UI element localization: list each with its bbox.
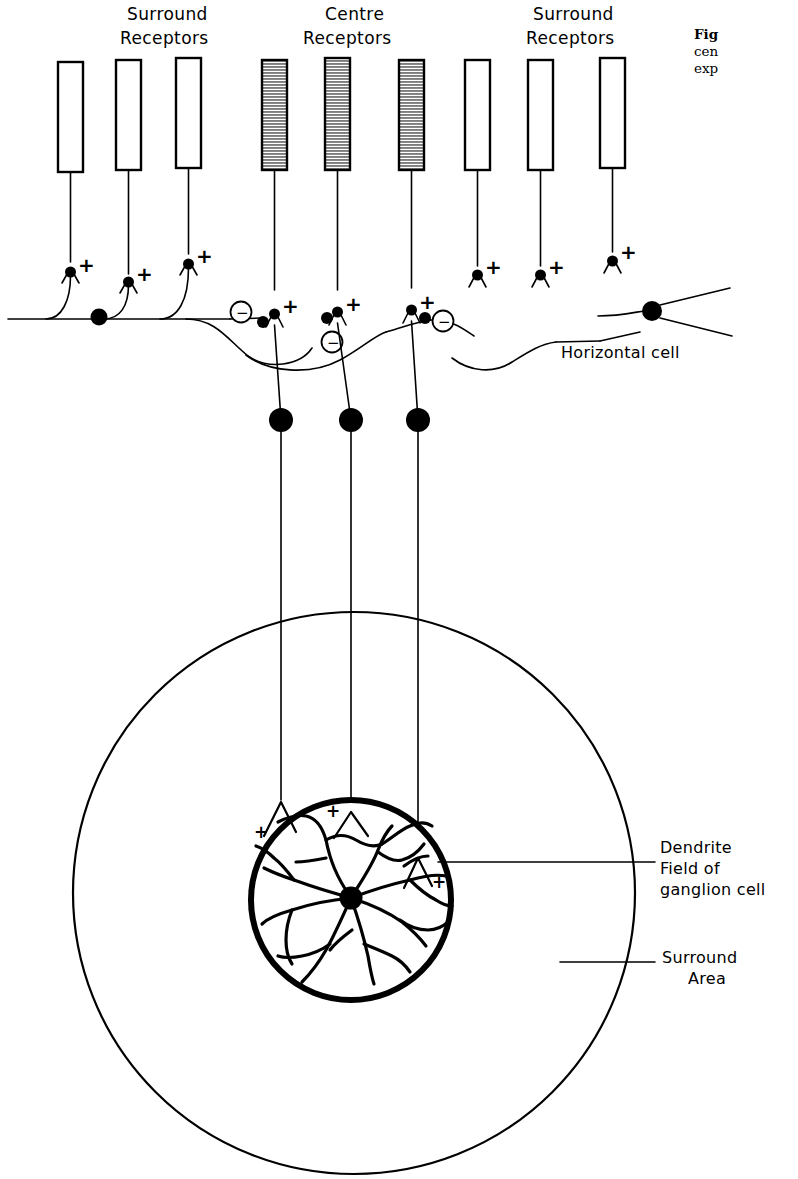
plus-sign-icon: + — [326, 801, 340, 821]
bipolar-cell-3 — [406, 321, 430, 860]
synapse-excitatory-7: + — [469, 255, 502, 287]
synapse-terminal-dot — [123, 277, 134, 288]
horizontal-cell-soma-left — [91, 309, 108, 326]
minus-sign-icon: − — [236, 304, 249, 322]
figure-caption-line-3: exp — [694, 60, 798, 77]
plus-sign-icon: + — [485, 255, 502, 279]
ganglion-cell-soma — [340, 887, 363, 910]
horizontal-cell-stem-right — [598, 311, 644, 316]
top-label-surround-left: Surround Receptors — [120, 4, 209, 48]
dendrite-field-label-line3: ganglion cell — [660, 880, 766, 899]
top-label-surround-right-line2: Receptors — [526, 28, 615, 48]
horizontal-cell-hook-1 — [46, 276, 71, 319]
centre-receptor-1 — [262, 60, 287, 290]
retina-receptive-field-diagram: Surround Receptors Centre Receptors Surr… — [0, 0, 798, 1179]
surround-receptor-5 — [528, 60, 553, 266]
horizontal-cell-trunk-right — [556, 341, 600, 342]
synapse-terminal-dot — [607, 256, 618, 267]
synapse-excitatory-5: + — [329, 292, 362, 325]
figure-caption-line-1: Fig — [694, 26, 798, 43]
synapse-inhibitory-3: − — [419, 311, 454, 332]
synapse-terminal-dot — [65, 267, 76, 278]
figure-root: Surround Receptors Centre Receptors Surr… — [0, 0, 798, 1179]
bipolar-soma — [339, 408, 363, 432]
top-label-centre-line1: Centre — [325, 4, 384, 24]
receptor-body — [262, 60, 287, 170]
horizontal-cell-feedback-arc-right — [452, 342, 556, 370]
horizontal-cell-label: Horizontal cell — [561, 343, 680, 362]
synapse-excitatory-2: + — [120, 262, 153, 293]
surround-receptor-4 — [465, 60, 490, 266]
horizontal-cell-process-upper-right — [660, 288, 730, 305]
bipolar-axon — [412, 321, 419, 860]
top-label-centre-line2: Receptors — [303, 28, 392, 48]
synapse-excitatory-8: + — [532, 255, 565, 287]
bipolar-soma — [406, 408, 430, 432]
top-label-surround-left-line2: Receptors — [120, 28, 209, 48]
plus-sign-icon: + — [254, 822, 268, 842]
bipolar-cell-2 — [338, 323, 364, 812]
synapse-inhibitory-1: − — [231, 302, 270, 329]
plus-sign-icon: + — [196, 244, 213, 268]
minus-sign-icon: − — [438, 313, 451, 331]
horizontal-cell-trunk-right2 — [600, 332, 640, 341]
plus-sign-icon: + — [432, 872, 446, 892]
plus-sign-icon: + — [345, 292, 362, 316]
synapse-terminal-dot — [269, 309, 280, 320]
plus-sign-icon: + — [78, 253, 95, 277]
dendrite-field-label-line2: Field of — [660, 859, 720, 878]
receptor-body — [58, 62, 83, 172]
surround-area-label-line1: Surround — [662, 948, 737, 967]
receptor-body — [325, 58, 350, 170]
synapse-excitatory-3: + — [180, 244, 213, 275]
plus-sign-icon: + — [548, 255, 565, 279]
surround-area-label-line2: Area — [688, 969, 726, 988]
figure-caption: Fig cen exp — [694, 26, 798, 77]
horizontal-cell-hook-3 — [160, 268, 189, 319]
top-label-centre: Centre Receptors — [303, 4, 392, 48]
horizontal-cell-process-lower-right — [660, 318, 732, 336]
receptor-body — [600, 58, 625, 168]
centre-receptor-3 — [399, 60, 424, 288]
receptor-body — [116, 60, 141, 170]
surround-receptor-2 — [116, 60, 141, 274]
inhibitory-terminal-dot — [257, 316, 269, 328]
inhibitory-terminal-dot — [419, 312, 431, 324]
plus-sign-icon: + — [282, 294, 299, 318]
top-label-surround-right-line1: Surround — [533, 4, 614, 24]
synapse-terminal-dot — [406, 305, 417, 316]
plus-sign-icon: + — [620, 240, 637, 264]
bipolar-cell-1 — [269, 325, 293, 800]
plus-sign-icon: + — [419, 290, 436, 314]
synapse-terminal-dot — [183, 259, 194, 270]
inhibitory-terminal-dot — [321, 312, 333, 324]
bipolar-soma — [269, 408, 293, 432]
dendrite-field-label-line1: Dendrite — [660, 838, 732, 857]
top-label-surround-right: Surround Receptors — [526, 4, 615, 48]
horizontal-cell-hook-2 — [104, 285, 129, 319]
synapse-terminal-dot — [332, 307, 343, 318]
synapse-excitatory-9: + — [604, 240, 637, 273]
centre-receptor-2 — [325, 58, 350, 290]
surround-receptor-3 — [176, 58, 201, 254]
plus-sign-icon: + — [136, 262, 153, 286]
minus-sign-icon: − — [327, 334, 340, 352]
top-label-surround-left-line1: Surround — [127, 4, 208, 24]
synapse-excitatory-4: + — [266, 294, 299, 327]
receptor-body — [176, 58, 201, 168]
synapse-terminal-dot — [535, 270, 546, 281]
figure-caption-line-2: cen — [694, 43, 798, 60]
surround-receptor-6 — [600, 58, 625, 252]
synapse-terminal-dot — [472, 270, 483, 281]
receptor-body — [528, 60, 553, 170]
surround-receptor-1 — [58, 62, 83, 262]
horizontal-cell-soma-right — [642, 301, 662, 321]
receptor-body — [399, 60, 424, 170]
receptor-body — [465, 60, 490, 170]
synapse-excitatory-1: + — [62, 253, 95, 283]
bipolar-axon — [338, 323, 352, 812]
bipolar-axon — [275, 325, 282, 800]
